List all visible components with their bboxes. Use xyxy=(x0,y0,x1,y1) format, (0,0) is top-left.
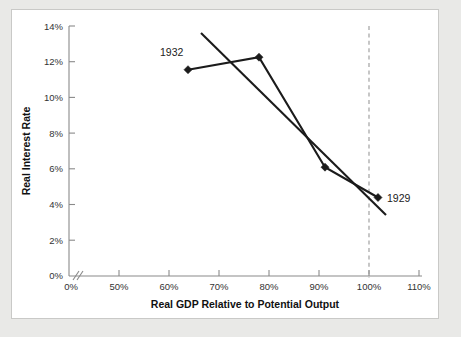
y-tick-label: 4% xyxy=(49,199,63,210)
annotation-1932: 1932 xyxy=(160,46,184,58)
x-tick-label: 50% xyxy=(109,281,129,292)
data-point-marker xyxy=(184,66,192,74)
x-tick-label: 100% xyxy=(357,281,382,292)
y-axis-title: Real Interest Rate xyxy=(20,106,32,195)
chart-figure-panel: 14% 12% 10% 8% 6% 4% 2% 0% 0% 50% 60% 70… xyxy=(11,9,439,319)
x-tick-label: 90% xyxy=(309,281,329,292)
x-tick-labels: 0% 50% 60% 70% 80% 90% 100% 110% xyxy=(64,281,431,292)
kinked-path-line xyxy=(188,57,378,197)
x-tick-label: 0% xyxy=(64,281,78,292)
y-tick-label: 14% xyxy=(44,21,64,32)
y-tick-label: 0% xyxy=(49,270,63,281)
y-tick-label: 12% xyxy=(44,56,64,67)
x-tick-label: 110% xyxy=(407,281,431,292)
x-tick-label: 80% xyxy=(259,281,279,292)
y-tick-label: 6% xyxy=(49,163,63,174)
x-tick-label: 70% xyxy=(209,281,229,292)
real-interest-rate-vs-gdp-chart: 14% 12% 10% 8% 6% 4% 2% 0% 0% 50% 60% 70… xyxy=(12,10,438,318)
x-tick-marks xyxy=(119,270,419,276)
y-tick-marks xyxy=(69,26,75,240)
y-tick-label: 8% xyxy=(49,128,63,139)
y-tick-label: 2% xyxy=(49,235,63,246)
y-tick-labels: 14% 12% 10% 8% 6% 4% 2% 0% xyxy=(44,21,64,282)
x-axis-title: Real GDP Relative to Potential Output xyxy=(151,298,340,310)
annotation-1929: 1929 xyxy=(387,192,411,204)
y-tick-label: 10% xyxy=(44,92,64,103)
straight-path-line xyxy=(201,33,386,215)
x-tick-label: 60% xyxy=(159,281,179,292)
data-markers xyxy=(184,53,382,201)
